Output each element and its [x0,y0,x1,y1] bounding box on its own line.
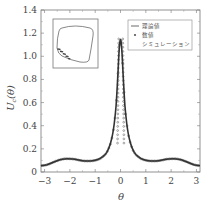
inset [53,19,98,68]
y-tick-label: 0 [31,167,37,177]
y-tick-label: 0.4 [23,121,38,131]
y-tick-label: 1.2 [23,28,37,38]
x-tick-label: 3 [194,176,200,186]
x-tick-label: 1 [143,176,149,186]
y-tick-labels: 00.20.40.60.81.01.21.4 [23,5,38,177]
x-tick-labels: −3−2−10123 [38,176,200,186]
y-tick-label: 0.8 [23,74,38,84]
legend: 理論値 数値 シミュレーション [128,20,192,50]
legend-label-theory: 理論値 [142,22,160,30]
y-tick-label: 1.0 [23,51,38,61]
legend-label-simulation: シミュレーション [142,41,190,48]
y-axis-label: Uc(θ) [5,85,17,111]
svg-text:Uc(θ): Uc(θ) [5,85,17,111]
x-axis-label: θ [118,191,124,202]
x-tick-label: −3 [38,176,52,186]
y-tick-label: 0.6 [23,98,38,108]
x-tick-label: 2 [168,176,174,186]
legend-label-numeric: 数値 [142,31,154,39]
y-tick-label: 1.4 [23,5,38,15]
x-tick-label: −1 [89,176,102,186]
chart: 00.20.40.60.81.01.21.4 −3−2−10123 Uc(θ) … [0,0,206,209]
y-tick-label: 0.2 [23,144,37,154]
legend-marker-icon [134,34,136,36]
x-tick-label: −2 [63,176,76,186]
x-tick-label: 0 [118,176,124,186]
